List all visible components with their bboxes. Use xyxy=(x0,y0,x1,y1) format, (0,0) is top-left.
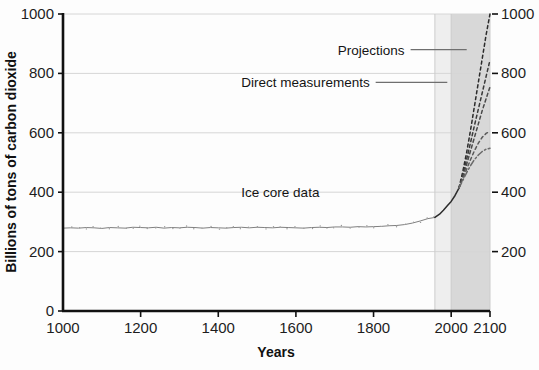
y-axis-tick-label-left: 200 xyxy=(29,243,54,260)
ice-core-data-point xyxy=(405,224,406,225)
chart-annotation: Direct measurements xyxy=(241,75,370,90)
chart-figure: 0200400600800100020040060080010001000120… xyxy=(0,0,539,370)
y-axis-tick-label-right: 800 xyxy=(501,64,526,81)
ice-core-data-point xyxy=(265,228,266,229)
ice-core-data-point xyxy=(396,226,397,227)
x-axis-tick-label: 1200 xyxy=(124,319,157,336)
ice-core-data-point xyxy=(164,226,165,227)
ice-core-data-point xyxy=(118,226,119,227)
ice-core-data-point xyxy=(233,226,234,227)
ice-core-data-point xyxy=(380,226,381,227)
y-axis-tick-label-right: 600 xyxy=(501,124,526,141)
ice-core-data-point xyxy=(420,222,421,223)
y-axis-tick-label-left: 600 xyxy=(29,124,54,141)
ice-core-data-point xyxy=(273,226,274,227)
ice-core-data-point xyxy=(179,227,180,228)
ice-core-data-point xyxy=(279,226,280,227)
direct-measurements-band xyxy=(435,14,451,311)
ice-core-data-point xyxy=(147,228,148,229)
ice-core-data-point xyxy=(139,225,140,226)
ice-core-data-point xyxy=(193,228,194,229)
ice-core-data-point xyxy=(413,221,414,222)
ice-core-data-point xyxy=(219,228,220,229)
co2-emissions-chart: 0200400600800100020040060080010001000120… xyxy=(0,0,539,370)
ice-core-data-point xyxy=(387,224,388,225)
x-axis-tick-label: 2000 xyxy=(434,319,467,336)
ice-core-data-point xyxy=(333,227,334,228)
y-axis-tick-label-left: 1000 xyxy=(21,5,54,22)
annotations-group: ProjectionsDirect measurementsIce core d… xyxy=(241,43,466,201)
ice-core-data-point xyxy=(358,226,359,227)
x-axis-tick-label: 1000 xyxy=(46,319,79,336)
ice-core-data-point xyxy=(248,226,249,227)
ice-core-data-point xyxy=(132,228,133,229)
x-axis-title: Years xyxy=(257,344,295,360)
y-axis-tick-label-left: 0 xyxy=(46,302,54,319)
y-axis-tick-label-right: 400 xyxy=(501,183,526,200)
ice-core-data-point xyxy=(373,227,374,228)
ice-core-data-point xyxy=(257,226,258,227)
ice-core-data-point xyxy=(366,225,367,226)
y-axis-title: Billions of tons of carbon dioxide xyxy=(3,51,19,273)
ice-core-data-point xyxy=(303,228,304,229)
ice-core-data-point xyxy=(172,228,173,229)
chart-annotation: Projections xyxy=(338,43,405,58)
y-axis-tick-label-left: 400 xyxy=(29,183,54,200)
x-axis-tick-label: 1600 xyxy=(279,319,312,336)
ice-core-data-point xyxy=(312,228,313,229)
ice-core-data-point xyxy=(71,226,72,227)
x-axis-tick-label: 2100 xyxy=(473,319,506,336)
ice-core-data-point xyxy=(86,228,87,229)
ice-core-data-point xyxy=(349,227,350,228)
ice-core-data-point xyxy=(320,225,321,226)
ice-core-data-point xyxy=(294,226,295,227)
y-axis-tick-label-right: 1000 xyxy=(501,5,534,22)
ice-core-data-point xyxy=(210,226,211,227)
ice-core-data-point xyxy=(79,227,80,228)
ice-core-data-point xyxy=(240,228,241,229)
y-axis-tick-label-left: 800 xyxy=(29,64,54,81)
ice-core-data-point xyxy=(109,228,110,229)
gridlines-group xyxy=(63,14,490,311)
ice-core-data-point xyxy=(126,228,127,229)
x-axis-tick-label: 1400 xyxy=(202,319,235,336)
projections-band xyxy=(451,14,490,311)
x-axis-tick-label: 1800 xyxy=(357,319,390,336)
ice-core-data-point xyxy=(100,228,101,229)
ice-core-data-point xyxy=(92,226,93,227)
ice-core-data-point xyxy=(426,217,427,218)
ice-core-data-point xyxy=(155,227,156,228)
axes-group xyxy=(62,13,490,311)
ice-core-data-point xyxy=(186,225,187,226)
ice-core-data-point xyxy=(286,228,287,229)
ice-core-data-point xyxy=(201,227,202,228)
ice-core-data-point xyxy=(326,227,327,228)
chart-annotation: Ice core data xyxy=(241,185,320,200)
ice-core-data-point xyxy=(341,225,342,226)
ice-core-data-point xyxy=(226,227,227,228)
y-axis-tick-label-right: 200 xyxy=(501,243,526,260)
